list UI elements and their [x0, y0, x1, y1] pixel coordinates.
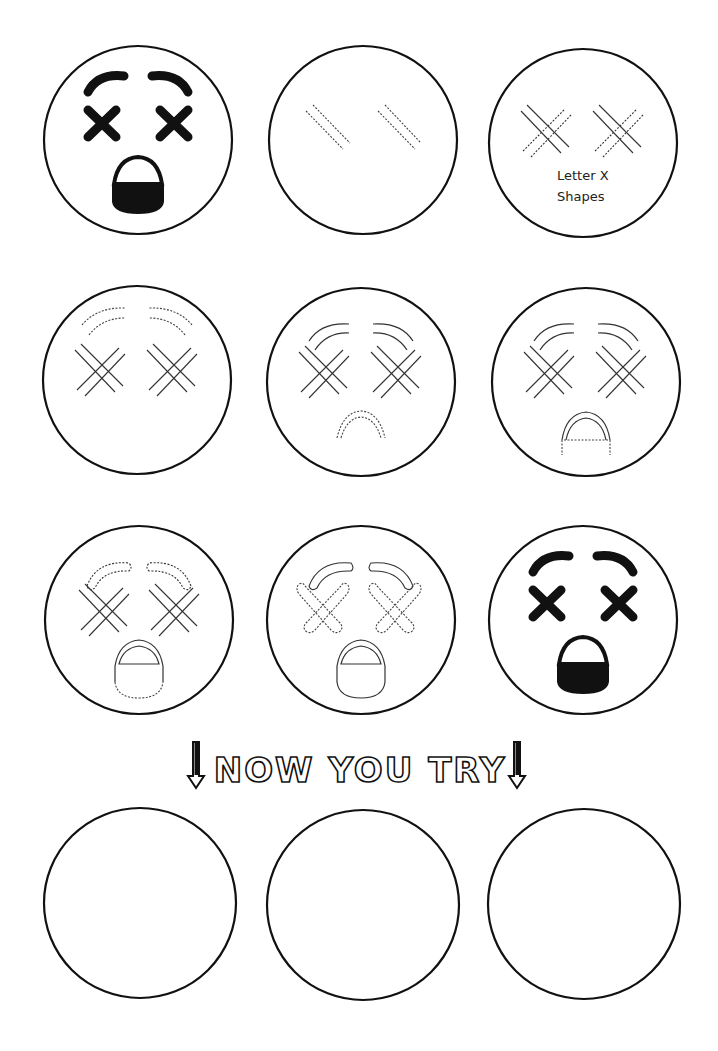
banner-title: NOW YOU TRY [214, 750, 507, 790]
step-7-mouth-bottom-guide [45, 526, 233, 714]
annotation-line-1: Letter X [557, 168, 609, 183]
step-2-eye-guides [269, 46, 457, 234]
now-you-try-banner: NOW YOU TRY [188, 742, 525, 790]
step-5-mouth-top-guide [267, 288, 455, 476]
practice-circle-1[interactable] [44, 808, 236, 998]
step-6-mouth-sides-guide [492, 288, 680, 476]
down-arrow-icon [188, 742, 204, 788]
worksheet-canvas: Letter X Shapes [0, 0, 718, 1051]
step-3-x-shapes: Letter X Shapes [489, 49, 677, 237]
annotation-line-2: Shapes [557, 189, 605, 204]
down-arrow-icon [509, 742, 525, 788]
step-4-eyebrow-guides [43, 286, 231, 474]
practice-circle-3[interactable] [488, 809, 680, 999]
step-8-x-outline-guide [267, 526, 455, 714]
step-1-finished-emoji [44, 46, 232, 234]
step-9-final-emoji [489, 526, 677, 714]
practice-circle-2[interactable] [267, 810, 459, 1000]
